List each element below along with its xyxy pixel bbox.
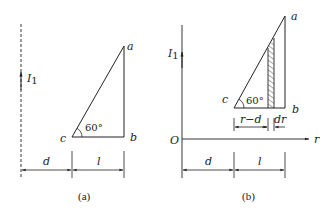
current-label-b: I1: [167, 47, 179, 61]
figure-b: I1 O r 60° a b c r−d dr d l (b): [167, 10, 320, 203]
caption-b: (b): [242, 190, 255, 203]
dim-r-minus-d-label: r−d: [240, 113, 262, 126]
vertex-a-b: a: [291, 10, 298, 23]
dim-dr-label: dr: [274, 113, 287, 126]
angle-arc-b: [239, 99, 244, 108]
r-axis-label: r: [314, 133, 320, 146]
vertex-b-a: b: [130, 131, 137, 144]
dim-d-label-a: d: [43, 155, 50, 168]
hatched-strip: [268, 38, 274, 108]
angle-label-a: 60°: [85, 122, 103, 133]
angle-label-b: 60°: [246, 95, 264, 106]
dim-l-label-a: l: [97, 155, 101, 168]
dim-d-label-b: d: [205, 155, 212, 168]
current-label-a: I1: [26, 72, 38, 86]
origin-label: O: [170, 134, 179, 147]
vertex-b-b: b: [292, 103, 299, 116]
vertex-a-a: a: [127, 40, 134, 53]
vertex-c-b: c: [222, 93, 228, 106]
angle-arc-a: [77, 128, 82, 137]
dim-l-label-b: l: [258, 155, 262, 168]
vertex-c-a: c: [60, 132, 66, 145]
figure-a: I1 60° a b c d l (a): [21, 24, 137, 203]
caption-a: (a): [78, 190, 91, 203]
diagram-canvas: I1 60° a b c d l (a) I1 O r 60° a b c: [0, 0, 336, 214]
